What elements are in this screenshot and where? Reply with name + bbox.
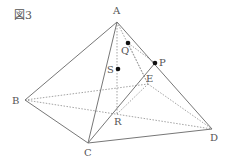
figure-title: 図3: [14, 9, 32, 22]
edge-b-e: [25, 84, 148, 100]
point-p-marker: [153, 61, 158, 66]
edge-a-c: [88, 22, 117, 143]
edge-b-c: [25, 100, 88, 143]
label-a: A: [112, 5, 121, 16]
label-p: P: [159, 57, 166, 68]
edge-e-d: [148, 84, 212, 129]
pyramid-figure: 図3 A B C D E P Q S R: [0, 0, 226, 164]
label-q: Q: [121, 45, 129, 56]
edge-a-d: [117, 22, 212, 129]
label-r: R: [114, 116, 122, 127]
edge-c-d: [88, 129, 212, 143]
segment-q-e: [128, 43, 148, 84]
edge-a-b: [25, 22, 117, 100]
segment-r-e: [117, 84, 148, 114]
point-s-marker: [116, 67, 121, 72]
label-c: C: [84, 147, 92, 158]
label-d: D: [210, 132, 218, 143]
label-b: B: [12, 95, 19, 106]
hidden-edges: [25, 22, 212, 129]
label-s: S: [107, 64, 114, 75]
label-e: E: [146, 73, 153, 84]
